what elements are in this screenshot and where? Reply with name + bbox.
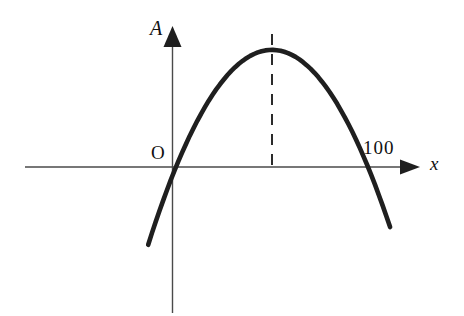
x-axis-arrowhead-icon bbox=[400, 160, 420, 175]
y-axis-label: A bbox=[150, 18, 162, 38]
x-axis-label: x bbox=[430, 154, 438, 173]
x-tick-label-100: 100 bbox=[363, 138, 395, 157]
parabola-figure: A O 100 x bbox=[0, 0, 464, 316]
origin-label: O bbox=[151, 143, 165, 162]
plot-canvas bbox=[0, 0, 464, 316]
parabola-curve bbox=[148, 50, 390, 245]
y-axis-arrowhead-icon bbox=[164, 26, 182, 47]
